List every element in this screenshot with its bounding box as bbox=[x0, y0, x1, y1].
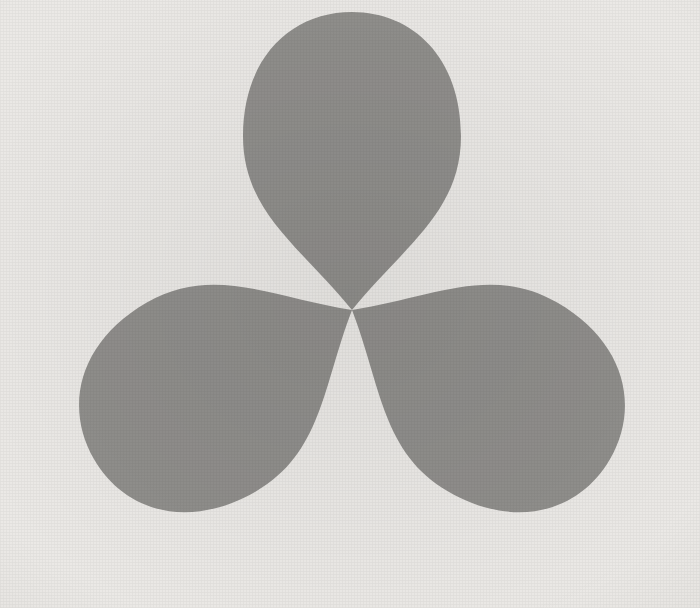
artboard: Trefoil Overlap Composition bbox=[0, 0, 700, 608]
trefoil-overlap-svg: Trefoil Overlap Composition bbox=[0, 0, 700, 608]
figure-container: Trefoil Overlap Composition bbox=[0, 0, 700, 608]
